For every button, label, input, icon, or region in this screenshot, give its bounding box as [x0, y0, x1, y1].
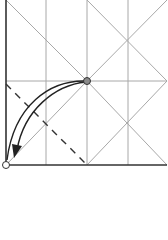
start-point-marker	[84, 78, 91, 85]
arrowhead-icon	[12, 144, 22, 158]
end-point-marker	[3, 162, 10, 169]
